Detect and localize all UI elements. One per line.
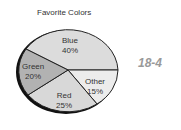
slice-name: Other [85, 77, 105, 87]
slice-pct: 20% [22, 72, 44, 82]
slice-pct: 15% [85, 87, 105, 97]
slice-name: Red [56, 91, 72, 101]
figure-label: 18-4 [138, 56, 162, 70]
slice-pct: 25% [56, 101, 72, 111]
slice-pct: 40% [62, 46, 78, 56]
slice-label-red: Red 25% [56, 91, 72, 111]
slice-label-blue: Blue 40% [62, 36, 78, 56]
slice-label-other: Other 15% [85, 77, 105, 97]
slice-name: Green [22, 62, 44, 72]
slice-label-green: Green 20% [22, 62, 44, 82]
slice-name: Blue [62, 36, 78, 46]
